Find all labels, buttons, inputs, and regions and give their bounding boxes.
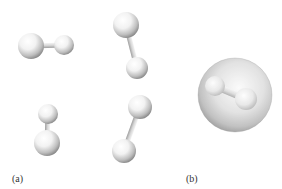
atom-ball [112, 139, 136, 163]
atom-ball [38, 104, 58, 124]
atom-ball [54, 35, 74, 55]
molecule-3 [34, 104, 60, 156]
atom-ball [113, 12, 139, 38]
molecule-2 [113, 12, 148, 79]
molecule-1 [18, 33, 74, 59]
sphere-glass-overlay [198, 58, 272, 132]
panel-a [18, 12, 152, 163]
atom-ball [34, 130, 60, 156]
panel-b-label: (b) [186, 173, 198, 184]
atom-ball [128, 95, 152, 119]
atom-ball [18, 33, 44, 59]
panel-b [198, 58, 272, 132]
figure-canvas [0, 0, 282, 189]
atom-ball [126, 57, 148, 79]
panel-a-label: (a) [12, 173, 23, 184]
molecule-figure: (a) (b) [0, 0, 282, 189]
molecule-4 [112, 95, 152, 163]
